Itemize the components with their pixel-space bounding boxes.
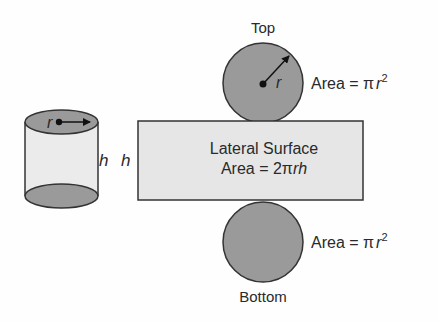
cylinder-height-label: h [99,151,108,170]
lateral-surface: Lateral Surface Area = 2πrh [138,121,363,200]
bottom-label: Bottom [239,288,287,305]
bottom-area-formula: Area = πr2 [311,231,388,251]
cylinder: r h [25,110,108,208]
top-area-formula: Area = πr2 [311,72,388,92]
top-radius-label: r [276,74,282,91]
cylinder-net-diagram: r h h Top r Area = πr2 Lateral Surface A… [0,0,438,321]
diagram-svg: r h h Top r Area = πr2 Lateral Surface A… [0,0,438,321]
cylinder-bottom-ellipse [25,184,98,208]
top-disc: Top r Area = πr2 [223,19,388,123]
lateral-area-formula: Area = 2πrh [221,160,307,177]
lateral-title: Lateral Surface [210,140,319,157]
cylinder-radius-label: r [47,114,53,131]
bottom-disc: Area = πr2 Bottom [223,202,388,305]
net-height-label: h [121,151,130,170]
top-label: Top [251,19,275,36]
